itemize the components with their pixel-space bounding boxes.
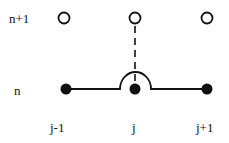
node-jm1-n1-icon — [59, 13, 70, 24]
col-label-mid: j — [132, 121, 136, 134]
node-jm1-n-icon — [61, 84, 72, 95]
stencil-graphic — [0, 0, 229, 143]
stencil-diagram: n+1 n j-1 j j+1 — [0, 0, 229, 143]
col-label-left: j-1 — [50, 121, 64, 134]
node-j-n1-icon — [130, 13, 141, 24]
node-jp1-n1-icon — [202, 13, 213, 24]
row-label-upper: n+1 — [9, 12, 29, 25]
node-jp1-n-icon — [202, 84, 213, 95]
row-label-lower: n — [14, 84, 21, 97]
col-label-right: j+1 — [196, 121, 213, 134]
node-j-n-icon — [130, 84, 141, 95]
